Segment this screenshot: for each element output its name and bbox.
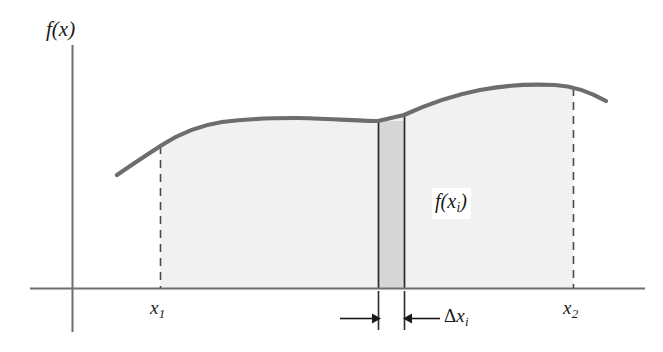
y-axis-label: f(x)	[46, 19, 75, 40]
strip-height-suffix: )	[460, 190, 467, 212]
shaded-area-under-curve	[160, 85, 573, 288]
x1-tick-label: x1	[150, 298, 165, 321]
strip-width-arrow-right	[403, 314, 440, 324]
strip-height-prefix: f(x	[435, 190, 456, 212]
x2-tick-label: x2	[563, 298, 578, 321]
figure-area-under-curve: f(x) x1 x2 f(xi) Δxi	[0, 0, 663, 352]
strip-width-label: Δxi	[444, 306, 469, 329]
strip-width-subscript: i	[465, 314, 469, 329]
strip-width-arrow-left	[340, 314, 381, 324]
y-axis-label-text: f(x)	[46, 17, 75, 41]
representative-strip	[378, 121, 404, 288]
strip-width-variable: x	[456, 305, 464, 326]
delta-symbol: Δ	[444, 305, 456, 326]
x2-subscript: 2	[571, 306, 578, 321]
strip-height-label: f(xi)	[432, 188, 471, 219]
x1-subscript: 1	[158, 306, 165, 321]
